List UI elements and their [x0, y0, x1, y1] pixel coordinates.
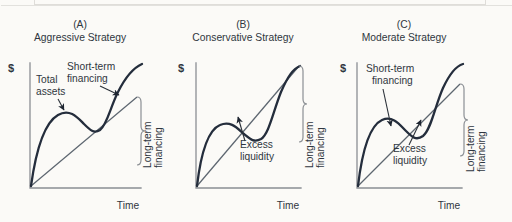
panel-b-x-axis-label: Time [277, 200, 300, 211]
panel-moderate-strategy: (C) Moderate Strategy $ Short-term finan… [340, 19, 487, 211]
panel-conservative-strategy: (B) Conservative Strategy $ Excess liqui… [178, 19, 326, 211]
panel-c-brace-label-line1: Long-term [465, 126, 476, 172]
panel-c-title: Moderate Strategy [362, 32, 448, 43]
panel-aggressive-strategy: (A) Aggressive Strategy $ Total assets S… [8, 19, 164, 211]
panel-a-brace-label-line1: Long-term [142, 122, 153, 168]
panel-c-x-axis-label: Time [438, 200, 461, 211]
panel-a-stf-leader [100, 86, 119, 95]
panel-b-brace-label-line1: Long-term [304, 122, 315, 168]
panel-c-stf-label-line2: financing [372, 75, 413, 86]
panel-a-brace-label-line2: financing [153, 127, 164, 168]
panel-a-longterm-line [31, 97, 137, 186]
panel-c-excess-label-line2: liquidity [393, 155, 428, 166]
panel-a-y-axis-symbol: $ [8, 62, 14, 74]
panel-b-y-axis-symbol: $ [178, 62, 184, 74]
panel-b-excess-label-line2: liquidity [240, 151, 275, 162]
panel-c-y-axis-symbol: $ [340, 62, 346, 74]
panel-a-total-assets-leader [58, 99, 64, 110]
panel-a-title: Aggressive Strategy [34, 32, 127, 43]
panel-a-total-assets-label-line1: Total [36, 74, 58, 85]
panel-a-tag: (A) [73, 19, 87, 30]
panel-b-brace-label-line2: financing [315, 127, 326, 168]
panel-c-tag: (C) [397, 19, 411, 30]
panel-b-title: Conservative Strategy [192, 32, 294, 43]
panel-b-tag: (B) [236, 19, 250, 30]
figure-canvas: (A) Aggressive Strategy $ Total assets S… [0, 0, 512, 222]
panel-c-stf-leader [383, 89, 391, 126]
panel-c-stf-label-line1: Short-term [366, 63, 414, 74]
panel-a-x-axis-label: Time [117, 200, 140, 211]
panel-a-total-assets-label-line2: assets [36, 86, 65, 97]
panel-a-stf-label-line1: Short-term [67, 61, 115, 72]
financing-strategies-figure: (A) Aggressive Strategy $ Total assets S… [0, 0, 512, 222]
panel-a-stf-label-line2: financing [67, 73, 108, 84]
panel-c-brace-label-line2: financing [476, 131, 487, 172]
